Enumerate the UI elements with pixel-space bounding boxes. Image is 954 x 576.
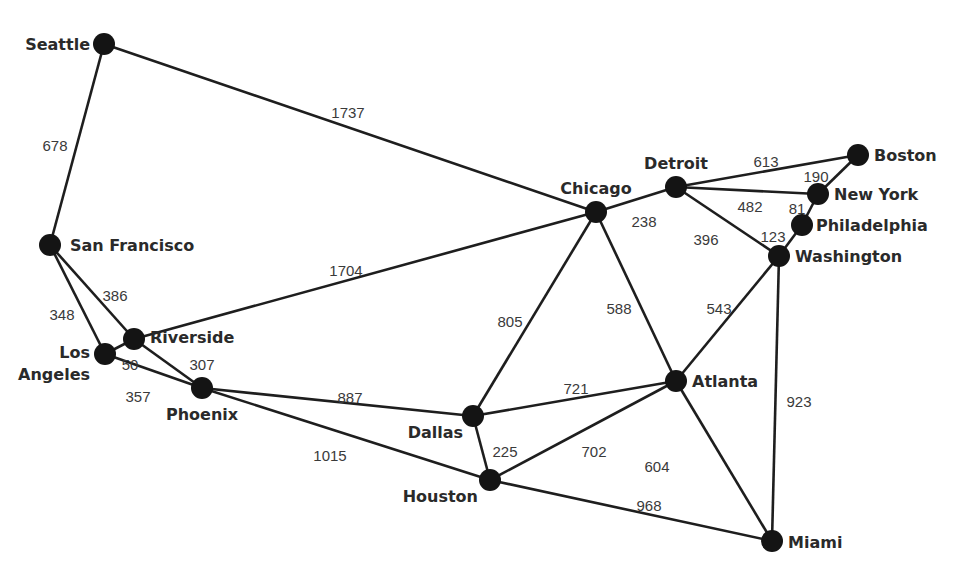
edge-atlanta-miami <box>676 381 772 541</box>
city-label-line: Angeles <box>18 365 90 384</box>
distance-label-washington-atlanta: 543 <box>706 300 731 317</box>
distance-label-dallas-atlanta: 721 <box>563 380 588 397</box>
distance-label-riverside-chicago: 1704 <box>329 262 362 279</box>
nodes-layer <box>39 33 869 552</box>
distance-label-atlanta-miami: 604 <box>644 458 669 475</box>
distance-label-san-francisco-los-angeles: 348 <box>49 306 74 323</box>
city-node-miami <box>761 530 783 552</box>
city-label-phoenix: Phoenix <box>166 405 239 424</box>
distance-label-los-angeles-riverside: 50 <box>122 356 139 373</box>
city-node-philadelphia <box>791 214 813 236</box>
distance-label-detroit-new-york: 482 <box>737 198 762 215</box>
edge-riverside-chicago <box>134 212 596 339</box>
city-label-riverside: Riverside <box>150 328 234 347</box>
edge-los-angeles-phoenix <box>105 354 202 388</box>
city-node-san-francisco <box>39 234 61 256</box>
distance-label-dallas-houston: 225 <box>492 443 517 460</box>
city-label-los-angeles: LosAngeles <box>18 343 90 384</box>
city-node-houston <box>479 469 501 491</box>
distance-label-houston-atlanta: 702 <box>581 443 606 460</box>
city-node-chicago <box>585 201 607 223</box>
city-node-detroit <box>665 176 687 198</box>
distance-label-philadelphia-washington: 123 <box>760 228 785 245</box>
edge-detroit-new-york <box>676 187 818 194</box>
distance-label-phoenix-houston: 1015 <box>313 447 346 464</box>
city-node-atlanta <box>665 370 687 392</box>
distance-labels-layer: 1737678348386503573071704887101523880558… <box>42 104 828 514</box>
distance-label-chicago-dallas: 805 <box>497 313 522 330</box>
city-node-phoenix <box>191 377 213 399</box>
city-label-miami: Miami <box>788 533 842 552</box>
road-network-graph: 1737678348386503573071704887101523880558… <box>0 0 954 576</box>
edge-washington-atlanta <box>676 256 779 381</box>
distance-label-seattle-chicago: 1737 <box>331 104 364 121</box>
city-node-washington <box>768 245 790 267</box>
edge-seattle-chicago <box>104 44 596 212</box>
city-label-line: Los <box>59 343 90 362</box>
distance-label-san-francisco-riverside: 386 <box>102 287 127 304</box>
city-label-seattle: Seattle <box>25 35 90 54</box>
city-node-riverside <box>123 328 145 350</box>
city-label-detroit: Detroit <box>644 154 708 173</box>
distance-label-chicago-detroit: 238 <box>631 213 656 230</box>
edge-washington-miami <box>772 256 779 541</box>
distance-label-houston-miami: 968 <box>636 497 661 514</box>
distance-label-detroit-washington: 396 <box>693 231 718 248</box>
city-label-san-francisco: San Francisco <box>70 236 194 255</box>
distance-label-los-angeles-phoenix: 357 <box>125 388 150 405</box>
edge-houston-miami <box>490 480 772 541</box>
city-label-philadelphia: Philadelphia <box>816 216 928 235</box>
edges-layer <box>50 44 858 541</box>
city-node-boston <box>847 144 869 166</box>
city-label-boston: Boston <box>874 146 937 165</box>
city-node-new-york <box>807 183 829 205</box>
distance-label-phoenix-dallas: 887 <box>337 389 362 406</box>
distance-label-detroit-boston: 613 <box>753 153 778 170</box>
edge-chicago-atlanta <box>596 212 676 381</box>
distance-label-seattle-san-francisco: 678 <box>42 137 67 154</box>
city-label-new-york: New York <box>834 185 919 204</box>
distance-label-riverside-phoenix: 307 <box>189 356 214 373</box>
city-node-los-angeles <box>94 343 116 365</box>
distance-label-boston-new-york: 190 <box>803 168 828 185</box>
city-label-atlanta: Atlanta <box>692 372 758 391</box>
city-label-dallas: Dallas <box>408 423 463 442</box>
city-label-chicago: Chicago <box>560 179 631 198</box>
city-labels-layer: SeattleSan FranciscoLosAngelesRiversideP… <box>18 35 937 552</box>
city-node-seattle <box>93 33 115 55</box>
city-label-houston: Houston <box>403 487 478 506</box>
distance-label-chicago-atlanta: 588 <box>606 300 631 317</box>
city-node-dallas <box>462 405 484 427</box>
city-label-washington: Washington <box>795 247 902 266</box>
edge-san-francisco-los-angeles <box>50 245 105 354</box>
distance-label-washington-miami: 923 <box>786 393 811 410</box>
edge-detroit-washington <box>676 187 779 256</box>
